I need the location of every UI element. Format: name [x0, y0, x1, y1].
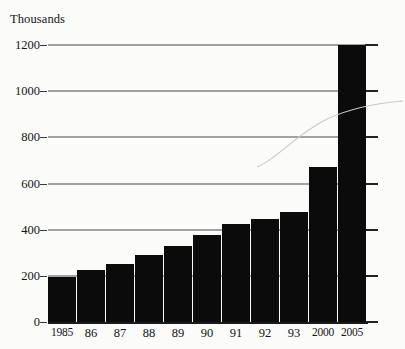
- x-axis-tick-label: 88: [135, 326, 163, 341]
- bar: [193, 235, 221, 322]
- x-axis-tick-label: 86: [77, 326, 105, 341]
- bar: [164, 246, 192, 322]
- x-axis-tick-label: 2005: [338, 326, 366, 341]
- y-axis-tick-label: 200: [21, 268, 40, 283]
- x-axis-tick-label: 1985: [48, 326, 76, 341]
- y-axis-tick-label: 400: [21, 222, 40, 237]
- x-axis-tick-label: 2000: [309, 326, 337, 341]
- tick-mark-left: [40, 91, 47, 92]
- bar: [338, 45, 366, 322]
- tick-mark-right: [365, 136, 378, 138]
- y-axis-tick-label: 600: [21, 176, 40, 191]
- bar: [251, 219, 279, 322]
- bar-chart: Thousands 020040060080010001200 19858687…: [0, 0, 405, 349]
- bar: [309, 167, 337, 322]
- tick-mark-right: [365, 90, 378, 92]
- y-axis-title: Thousands: [10, 12, 65, 27]
- bar: [106, 264, 134, 322]
- y-axis-tick-label: 1200: [15, 38, 40, 53]
- x-axis-tick-labels: 1985868788899091929320002005: [48, 326, 365, 341]
- x-axis-tick-label: 91: [222, 326, 250, 341]
- tick-mark-right: [365, 183, 378, 185]
- bar: [280, 212, 308, 322]
- y-axis-tick-labels: 020040060080010001200: [0, 45, 40, 322]
- bar: [222, 224, 250, 322]
- x-axis-tick-label: 90: [193, 326, 221, 341]
- tick-mark-left: [40, 137, 47, 138]
- tick-mark-right: [365, 229, 378, 231]
- y-axis-tick-label: 800: [21, 130, 40, 145]
- tick-mark-right: [365, 275, 378, 277]
- plot-area: [48, 45, 365, 322]
- x-axis-tick-label: 89: [164, 326, 192, 341]
- x-axis-tick-label: 87: [106, 326, 134, 341]
- tick-mark-right: [365, 44, 378, 46]
- bar: [48, 277, 76, 322]
- tick-mark-left: [40, 276, 47, 277]
- tick-mark-left: [40, 184, 47, 185]
- bar-series: [48, 45, 365, 322]
- tick-mark-left: [40, 45, 47, 46]
- x-axis-tick-label: 92: [251, 326, 279, 341]
- x-axis-tick-label: 93: [280, 326, 308, 341]
- y-axis-tick-label: 1000: [15, 84, 40, 99]
- tick-mark-left: [40, 322, 47, 323]
- tick-mark-left: [40, 230, 47, 231]
- bar: [77, 270, 105, 322]
- x-axis-baseline: [48, 322, 368, 324]
- bar: [135, 255, 163, 322]
